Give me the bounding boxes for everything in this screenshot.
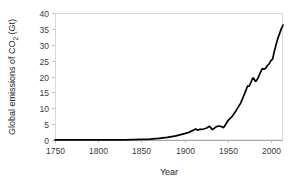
y-axis: 0510152025303540 — [40, 9, 55, 146]
y-axis-title-prefix: Global emissions of CO — [7, 41, 17, 136]
y-tick-label: 25 — [40, 57, 50, 67]
y-axis-title-suffix: (Gt) — [7, 19, 17, 37]
x-axis: 175018001850190019502000 — [46, 140, 283, 156]
x-tick-label: 1750 — [46, 146, 65, 156]
co2-emissions-line-chart: 0510152025303540 17501800185019001950200… — [0, 0, 299, 183]
y-tick-label: 5 — [44, 120, 49, 130]
y-tick-label: 15 — [40, 88, 50, 98]
y-tick-label: 0 — [44, 136, 49, 146]
x-axis-title: Year — [160, 167, 178, 177]
x-tick-label: 1950 — [219, 146, 238, 156]
y-tick-label: 30 — [40, 41, 50, 51]
y-tick-label: 35 — [40, 25, 50, 35]
data-series-line — [55, 25, 283, 140]
chart-container: 0510152025303540 17501800185019001950200… — [0, 0, 299, 183]
y-tick-label: 40 — [40, 9, 50, 19]
plot-area-border — [56, 14, 283, 141]
y-tick-label: 10 — [40, 104, 50, 114]
x-tick-label: 1800 — [89, 146, 108, 156]
x-tick-label: 2000 — [262, 146, 281, 156]
x-tick-label: 1850 — [132, 146, 151, 156]
x-tick-label: 1900 — [176, 146, 195, 156]
y-tick-label: 20 — [40, 73, 50, 83]
y-axis-title: Global emissions of CO2 (Gt) — [7, 19, 19, 135]
